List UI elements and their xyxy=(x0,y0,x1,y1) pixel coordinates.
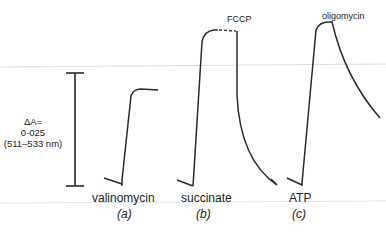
scale-bar xyxy=(66,73,84,186)
panel-a-label: valinomycin xyxy=(92,191,155,205)
scale-wavelength: (511–533 nm) xyxy=(0,138,66,149)
scale-value: 0·025 xyxy=(0,127,66,138)
panel-a-sublabel: (a) xyxy=(117,207,132,221)
scale-delta-a: ΔA= xyxy=(0,116,66,127)
panel-c-label: ATP xyxy=(289,191,311,205)
panel-b-sublabel: (b) xyxy=(196,207,211,221)
trace-b-decay xyxy=(237,31,277,185)
scan-artifact-line xyxy=(0,64,386,67)
annotation-fccp: FCCP xyxy=(227,14,252,24)
trace-c-atp xyxy=(271,22,380,186)
trace-b-fccp-dashed xyxy=(219,30,236,31)
panel-b-label: succinate xyxy=(181,191,232,205)
scale-bar-label: ΔA= 0·025 (511–533 nm) xyxy=(0,116,66,149)
panel-c-sublabel: (c) xyxy=(292,207,306,221)
trace-a-valinomycin xyxy=(104,89,158,186)
trace-b-succinate xyxy=(177,30,218,186)
annotation-oligomycin: oligomycin xyxy=(322,11,365,21)
